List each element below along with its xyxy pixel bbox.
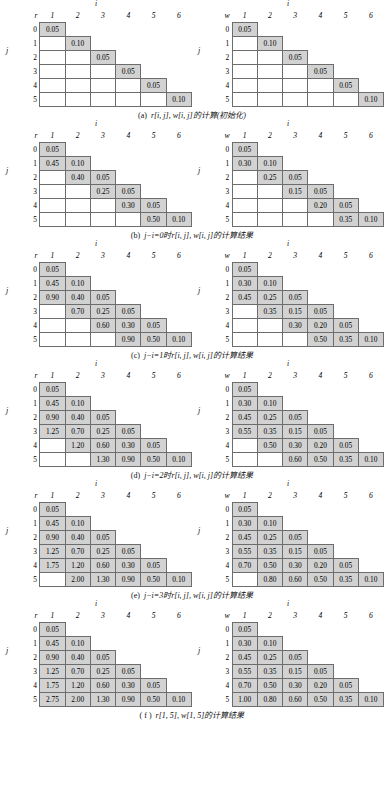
grid-cell-outside xyxy=(283,637,308,651)
row-label: 2 xyxy=(16,51,40,65)
grid-cell-outside xyxy=(166,623,191,637)
grid-cell-value: 0.90 xyxy=(40,411,65,425)
grid-cell-outside xyxy=(257,263,282,277)
row-label: 0 xyxy=(208,143,232,157)
grid-cell-outside xyxy=(283,397,308,411)
table-row: 30.550.350.150.05 xyxy=(208,545,384,559)
column-header: 6 xyxy=(166,9,191,23)
grid-cell-value: 0.50 xyxy=(141,213,166,227)
grid-cell-value: 0.25 xyxy=(257,651,282,665)
grid-cell-value: 0.30 xyxy=(232,637,257,651)
row-label: 2 xyxy=(16,531,40,545)
table-header-row: w123456 xyxy=(208,249,384,263)
column-header: 4 xyxy=(308,489,333,503)
grid-cell-outside xyxy=(333,305,358,319)
grid-cell-value: 0.45 xyxy=(40,397,65,411)
grid-cell-outside xyxy=(166,637,191,651)
column-header: 1 xyxy=(40,609,65,623)
grid-cell-outside xyxy=(333,425,358,439)
table-row: 50.900.500.10 xyxy=(16,333,192,347)
grid-cell-outside xyxy=(116,143,141,157)
row-label: 5 xyxy=(208,93,232,107)
column-header: 5 xyxy=(333,249,358,263)
panel-caption: ( f ) r[1, 5], w[1, 5]的计算结果 xyxy=(0,709,384,720)
grid-cell-outside xyxy=(308,623,333,637)
grid-cell-blank xyxy=(257,213,282,227)
grid-cell-value: 0.05 xyxy=(308,305,333,319)
grid-cell-blank xyxy=(40,573,65,587)
grid-cell-value: 0.10 xyxy=(257,397,282,411)
grid-cell-value: 0.60 xyxy=(90,679,115,693)
grid-cell-value: 1.30 xyxy=(90,453,115,467)
grid-cell-blank xyxy=(232,79,257,93)
column-header: 4 xyxy=(116,609,141,623)
grid-cell-outside xyxy=(65,263,90,277)
grid-cell-value: 0.80 xyxy=(257,693,282,707)
column-header: 2 xyxy=(257,9,282,23)
column-header: 5 xyxy=(141,609,166,623)
grid-cell-blank xyxy=(90,93,115,107)
table-row: 40.700.500.300.200.05 xyxy=(208,559,384,573)
grid-cell-value: 0.10 xyxy=(65,517,90,531)
grid-cell-outside xyxy=(358,65,383,79)
grid-cell-value: 0.25 xyxy=(257,531,282,545)
row-label: 1 xyxy=(16,157,40,171)
grid-cell-value: 0.10 xyxy=(358,453,383,467)
row-label: 1 xyxy=(16,637,40,651)
column-header: 5 xyxy=(333,489,358,503)
row-label: 0 xyxy=(16,143,40,157)
grid-cell-value: 0.35 xyxy=(257,665,282,679)
grid-cell-outside xyxy=(358,319,383,333)
grid-cell-outside xyxy=(141,411,166,425)
grid-cell-outside xyxy=(333,545,358,559)
panel-caption: (e) j−i=3时r[i, j], w[i, j]的计算结果 xyxy=(0,589,384,600)
grid-cell-value: 2.00 xyxy=(65,693,90,707)
column-header: 6 xyxy=(358,369,383,383)
panel-caption-text: r[i, j], w[i, j]的计算(初始化) xyxy=(151,111,246,120)
grid-cell-value: 0.30 xyxy=(283,559,308,573)
row-label: 2 xyxy=(208,411,232,425)
value-table: r12345600.0510.450.1020.900.400.0531.250… xyxy=(16,489,192,587)
grid-cell-outside xyxy=(166,199,191,213)
grid-cell-outside xyxy=(333,665,358,679)
grid-cell-outside xyxy=(65,143,90,157)
grid-cell-value: 0.45 xyxy=(40,637,65,651)
grid-cell-outside xyxy=(358,559,383,573)
grid-cell-value: 0.70 xyxy=(65,305,90,319)
axis-label-j: j xyxy=(198,406,200,415)
row-label: 0 xyxy=(208,623,232,637)
row-label: 3 xyxy=(208,425,232,439)
grid-cell-outside xyxy=(358,383,383,397)
grid-cell-value: 0.05 xyxy=(232,263,257,277)
table-row: 00.05 xyxy=(208,143,384,157)
table-row: 40.300.05 xyxy=(16,199,192,213)
column-header: 2 xyxy=(257,609,282,623)
grid-cell-value: 0.50 xyxy=(308,573,333,587)
table-row: 10.10 xyxy=(208,37,384,51)
grid-cell-outside xyxy=(90,517,115,531)
grid-cell-value: 0.05 xyxy=(141,679,166,693)
grid-cell-outside xyxy=(141,263,166,277)
table-row: 00.05 xyxy=(16,623,192,637)
value-table: r12345600.0510.1020.0530.0540.0550.10 xyxy=(16,9,192,107)
grid-cell-value: 0.05 xyxy=(90,411,115,425)
row-label: 1 xyxy=(208,637,232,651)
grid-cell-blank xyxy=(308,79,333,93)
table-row: 00.05 xyxy=(16,383,192,397)
column-header: 5 xyxy=(333,609,358,623)
grid-cell-blank xyxy=(65,93,90,107)
table-row: 40.05 xyxy=(208,79,384,93)
grid-cell-value: 0.05 xyxy=(283,171,308,185)
grid-cell-blank xyxy=(65,185,90,199)
grid-cell-outside xyxy=(358,23,383,37)
table-row: 00.05 xyxy=(16,263,192,277)
grid-cell-outside xyxy=(65,383,90,397)
grid-cell-blank xyxy=(40,333,65,347)
grid-cell-outside xyxy=(141,503,166,517)
grid-cell-value: 0.90 xyxy=(116,573,141,587)
grid-cell-value: 0.20 xyxy=(308,199,333,213)
grid-cell-outside xyxy=(358,665,383,679)
grid-cell-value: 0.45 xyxy=(40,517,65,531)
grid-cell-outside xyxy=(308,517,333,531)
grid-cell-value: 0.70 xyxy=(65,665,90,679)
